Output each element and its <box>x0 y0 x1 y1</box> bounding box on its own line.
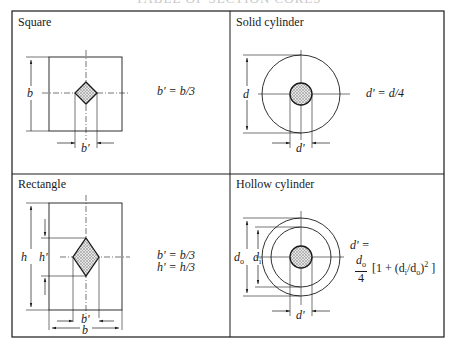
square-core-label: b' <box>81 141 90 155</box>
formula-part: /d <box>407 261 416 275</box>
rect-width-label: b <box>82 323 88 337</box>
hollow-core-label: d' <box>296 308 305 322</box>
frac-numerator-sub: o <box>362 260 366 269</box>
section-cores-diagram: b b' d d' h <box>0 0 457 347</box>
hollow-outer-label: do <box>234 250 244 266</box>
formula-part: ] <box>428 261 435 275</box>
rectangle-formula-h: h' = h/3 <box>157 260 195 275</box>
hollow-formula-lhs: d' = <box>350 238 370 253</box>
formula-part: [1 + (d <box>372 261 405 275</box>
rect-height-label: h <box>21 250 27 264</box>
solid-cylinder-diagram <box>243 50 350 148</box>
rect-core-height-label: h' <box>39 250 48 264</box>
panel-title-square: Square <box>18 15 51 30</box>
hollow-formula-rest: [1 + (di/do)2 ] <box>372 260 435 277</box>
frac-denominator: 4 <box>355 272 367 285</box>
solid-diameter-label: d <box>243 87 250 101</box>
hollow-inner-label: di <box>253 250 262 266</box>
table-grid <box>12 11 444 337</box>
panel-title-solid-cylinder: Solid cylinder <box>236 15 304 30</box>
hollow-formula-fraction: do 4 <box>355 254 367 285</box>
solid-cylinder-formula: d' = d/4 <box>366 86 404 101</box>
square-diagram <box>26 50 130 148</box>
square-formula: b' = b/3 <box>157 84 195 99</box>
panel-title-rectangle: Rectangle <box>18 177 66 192</box>
solid-core-label: d' <box>296 141 305 155</box>
panel-title-hollow-cylinder: Hollow cylinder <box>236 177 314 192</box>
square-side-label: b <box>27 86 33 100</box>
